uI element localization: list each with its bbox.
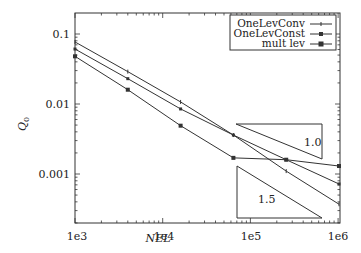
square-marker-icon: [320, 33, 323, 36]
x-square-marker-icon: [319, 42, 323, 46]
data-series: [73, 40, 341, 206]
chart: 0.1 0.01 0.001 1e3 1e4 1e5 1e6 NEL Q0 1.…: [0, 0, 361, 253]
x-tick-label: 1e3: [67, 230, 88, 243]
y-tick-label: 0.01: [46, 98, 71, 111]
y-axis-label: Q0: [16, 117, 31, 131]
slope-label-1: 1.0: [304, 136, 322, 149]
x-axis-label: NEL: [145, 232, 171, 245]
series-line: [75, 42, 339, 204]
y-tick-label: 0.001: [39, 168, 71, 181]
x-tick-label: 1e5: [241, 230, 262, 243]
series-line: [75, 49, 339, 184]
legend-label-mult: mult lev: [262, 37, 305, 49]
svg-text:Q0: Q0: [16, 117, 31, 131]
x-tick-label: 1e6: [328, 230, 349, 243]
slope-label-2: 1.5: [258, 193, 276, 206]
y-tick-label: 0.1: [53, 28, 71, 41]
slope-triangle-2: [237, 166, 322, 218]
